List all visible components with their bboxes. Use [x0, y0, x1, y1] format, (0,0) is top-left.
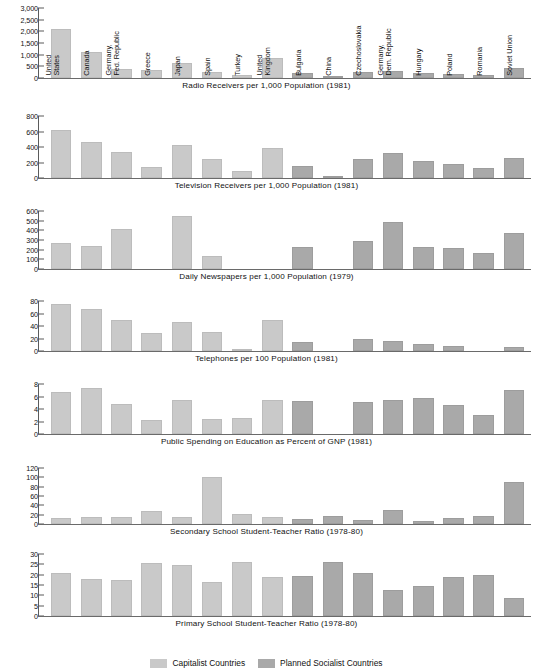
bar-slot: [318, 384, 348, 434]
y-tick-label: 3,000: [21, 4, 39, 13]
chart-panel-1: 05001,0001,5002,0002,5003,000United Stat…: [0, 8, 533, 90]
legend-item-capitalist: Capitalist Countries: [150, 658, 245, 668]
bar: [413, 398, 434, 434]
bar-slot: [438, 554, 468, 616]
bar: [443, 248, 464, 269]
bar-slot: [348, 301, 378, 351]
bar: [504, 68, 525, 78]
legend-label-socialist: Planned Socialist Countries: [280, 658, 382, 668]
y-tick-mark: [38, 162, 44, 163]
y-tick-mark: [38, 131, 44, 132]
bar-series: [46, 384, 529, 434]
y-axis: 020406080: [0, 301, 46, 351]
bar-slot: [257, 301, 287, 351]
bar-slot: [76, 468, 106, 524]
bar: [292, 247, 313, 269]
bar: [353, 241, 374, 269]
y-tick-label: 2,500: [21, 15, 39, 24]
bar-slot: [348, 554, 378, 616]
bar: [202, 332, 223, 351]
bar-slot: [469, 468, 499, 524]
bar-series: [46, 301, 529, 351]
bar: [81, 142, 102, 178]
bar-slot: [227, 554, 257, 616]
bar-slot: [106, 116, 136, 178]
y-tick-mark: [38, 230, 44, 231]
chart-panel-3: 0100200300400500600Daily Newspapers per …: [0, 211, 533, 281]
bar: [172, 216, 193, 269]
y-tick-mark: [38, 338, 44, 339]
y-tick-label: 20: [30, 570, 38, 579]
bar: [232, 171, 253, 178]
y-tick-mark: [38, 564, 44, 565]
bar: [111, 152, 132, 178]
chart-panel-5: 02468Public Spending on Education as Per…: [0, 384, 533, 446]
bar-slot: [137, 384, 167, 434]
y-tick-label: 1,500: [21, 39, 39, 48]
bar-slot: [197, 8, 227, 78]
y-tick-label: 25: [30, 560, 38, 569]
bar-slot: [378, 468, 408, 524]
bar-slot: [438, 116, 468, 178]
bar-slot: [499, 554, 529, 616]
bar-slot: [438, 384, 468, 434]
bar: [413, 161, 434, 178]
y-tick-label: 20: [30, 334, 38, 343]
y-tick-mark: [38, 147, 44, 148]
bar-slot: [167, 8, 197, 78]
bar-slot: [227, 8, 257, 78]
bar-slot: [408, 468, 438, 524]
bar-slot: [76, 8, 106, 78]
bar-slot: [408, 554, 438, 616]
y-tick-mark: [38, 116, 44, 117]
bar: [413, 247, 434, 269]
bar: [292, 401, 313, 434]
y-tick-mark: [38, 574, 44, 575]
bar: [51, 304, 72, 352]
y-tick-mark: [38, 301, 44, 302]
bar: [473, 575, 494, 616]
bar-slot: [318, 8, 348, 78]
chart-panel-4: 020406080Telephones per 100 Population (…: [0, 301, 533, 363]
bar: [51, 130, 72, 178]
bar-slot: [499, 384, 529, 434]
bar-slot: [197, 116, 227, 178]
bar-slot: [318, 554, 348, 616]
bar-series: [46, 554, 529, 616]
bar-slot: [167, 554, 197, 616]
bar-slot: [469, 301, 499, 351]
bar: [111, 69, 132, 78]
bar: [81, 579, 102, 616]
y-axis: 020406080100120: [0, 468, 46, 524]
y-tick-label: 120: [26, 464, 38, 473]
bar-slot: [106, 8, 136, 78]
bar-slot: [288, 211, 318, 269]
bar-slot: [469, 211, 499, 269]
bar-slot: [378, 384, 408, 434]
bar-slot: [348, 211, 378, 269]
y-tick-label: 400: [26, 226, 38, 235]
bar-slot: [167, 116, 197, 178]
bar-slot: [76, 384, 106, 434]
bar: [383, 400, 404, 434]
y-tick-mark: [38, 54, 44, 55]
y-tick-mark: [38, 477, 44, 478]
bar-slot: [46, 211, 76, 269]
bar-slot: [46, 554, 76, 616]
y-tick-mark: [38, 605, 44, 606]
bar: [232, 562, 253, 616]
bar: [141, 563, 162, 616]
bar-slot: [106, 384, 136, 434]
bar: [172, 322, 193, 351]
bar: [353, 339, 374, 352]
y-tick-label: 60: [30, 309, 38, 318]
bar-slot: [167, 384, 197, 434]
y-tick-label: 800: [26, 112, 38, 121]
chart-caption: Public Spending on Education as Percent …: [0, 437, 533, 446]
y-tick-mark: [38, 384, 44, 385]
bar-slot: [469, 384, 499, 434]
bar-slot: [288, 384, 318, 434]
bar-slot: [197, 554, 227, 616]
bar: [141, 420, 162, 434]
legend-swatch-socialist: [258, 659, 275, 668]
